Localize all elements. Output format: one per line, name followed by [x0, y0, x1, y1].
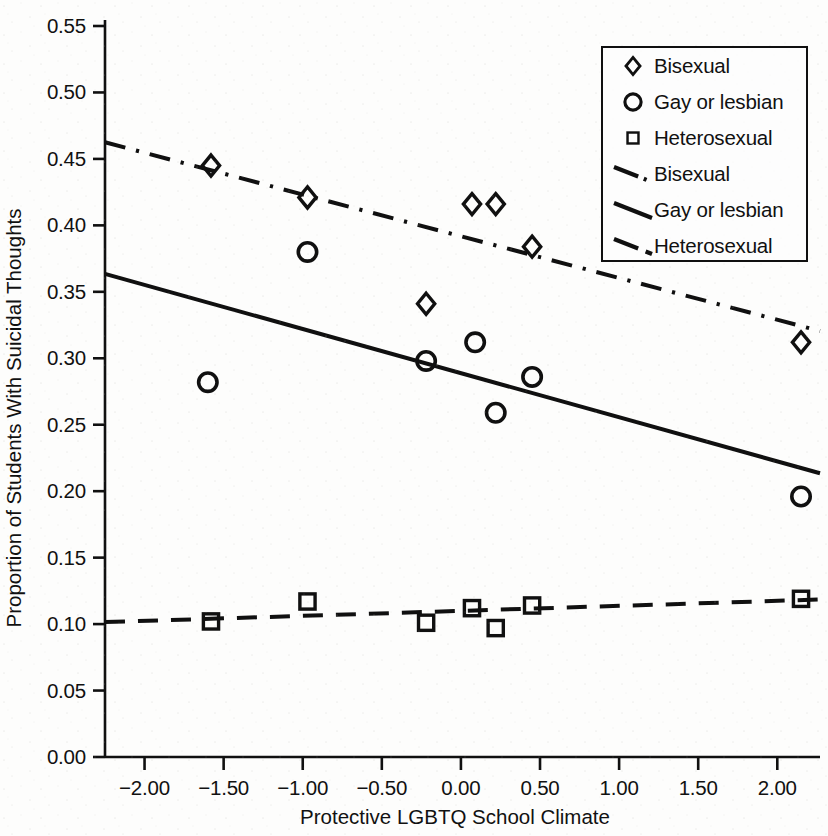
circle-marker [487, 404, 505, 422]
x-tick-label: 2.00 [727, 776, 827, 800]
square-marker [300, 594, 315, 609]
legend-line-dashdot [614, 167, 652, 182]
legend-label: Bisexual [654, 162, 730, 186]
diamond-marker [418, 293, 435, 314]
legend-label: Bisexual [654, 54, 730, 78]
diamond-marker [626, 57, 640, 74]
diamond-marker [487, 194, 504, 215]
series-square [203, 591, 808, 635]
square-marker [419, 615, 434, 630]
y-axis-title: Proportion of Students With Suicidal Tho… [0, 0, 28, 836]
diamond-marker [792, 332, 809, 353]
circle-marker [298, 243, 316, 261]
legend-label: Gay or lesbian [654, 198, 783, 222]
legend-key-square-marker [612, 123, 654, 153]
legend-item: Bisexual [603, 156, 806, 192]
x-axis-ticks [145, 757, 778, 770]
square-marker [488, 620, 503, 635]
legend-label: Heterosexual [654, 126, 772, 150]
circle-marker [466, 333, 484, 351]
y-axis-ticks [93, 26, 105, 757]
square-marker [203, 614, 218, 629]
legend-key-diamond-marker [612, 51, 654, 81]
legend-key-circle-marker [612, 87, 654, 117]
legend-item: Gay or lesbian [603, 192, 806, 228]
legend-key-dashdot-line [612, 159, 654, 189]
legend-key-dashed-line [612, 231, 654, 261]
diamond-marker [299, 187, 316, 208]
circle-marker [625, 94, 641, 110]
chart-figure: 0.000.050.100.150.200.250.300.350.400.45… [0, 0, 828, 836]
legend-key-solid-line [612, 195, 654, 225]
legend-label: Gay or lesbian [654, 90, 783, 114]
series-circle [199, 243, 811, 506]
legend-item: Heterosexual [603, 120, 806, 156]
x-axis-title: Protective LGBTQ School Climate [105, 805, 805, 829]
circle-marker [792, 487, 810, 505]
legend-line-dashed [614, 239, 652, 254]
circle-marker [523, 368, 541, 386]
trendline-dashed [105, 600, 820, 623]
legend-item: Heterosexual [603, 228, 806, 264]
square-marker [525, 598, 540, 613]
legend-label: Heterosexual [654, 234, 772, 258]
diamond-marker [463, 194, 480, 215]
square-marker [628, 133, 639, 144]
diamond-marker [202, 155, 219, 176]
square-marker [464, 601, 479, 616]
legend-item: Gay or lesbian [603, 84, 806, 120]
legend-item: Bisexual [603, 48, 806, 84]
chart-legend: BisexualGay or lesbianHeterosexualBisexu… [601, 46, 808, 262]
legend-line-solid [614, 203, 652, 218]
circle-marker [199, 373, 217, 391]
